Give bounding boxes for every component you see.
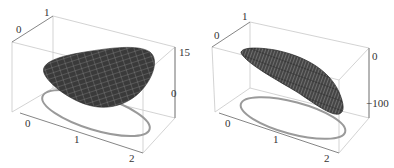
y-tick-1: 1: [44, 6, 50, 18]
z-tick-top: 0: [372, 50, 378, 62]
x-axis: [20, 113, 143, 153]
z-tick-mid: −100: [366, 97, 389, 109]
surface-plot-2: 0 1 0 1 2 0 −100: [197, 0, 394, 168]
y-tick-0: 0: [16, 23, 22, 35]
x-tick-0: 0: [225, 117, 231, 129]
x-tick-1: 1: [74, 133, 80, 145]
surface: [43, 47, 154, 107]
x-tick-2: 2: [129, 152, 135, 164]
z-tick-top: 15: [179, 46, 191, 58]
y-tick-1: 1: [242, 10, 248, 22]
x-tick-1: 1: [273, 133, 279, 145]
z-tick-mid: 0: [171, 87, 177, 99]
surface: [241, 48, 343, 114]
surface-plot-2-canvas: 0 1 0 1 2 0 −100: [197, 0, 394, 168]
surface-plot-1: 0 1 0 1 2 15 0: [0, 0, 197, 168]
x-axis: [219, 113, 339, 153]
y-tick-0: 0: [214, 29, 220, 41]
x-tick-2: 2: [324, 152, 330, 164]
x-tick-0: 0: [25, 117, 31, 129]
surface-plot-1-canvas: 0 1 0 1 2 15 0: [0, 0, 197, 168]
